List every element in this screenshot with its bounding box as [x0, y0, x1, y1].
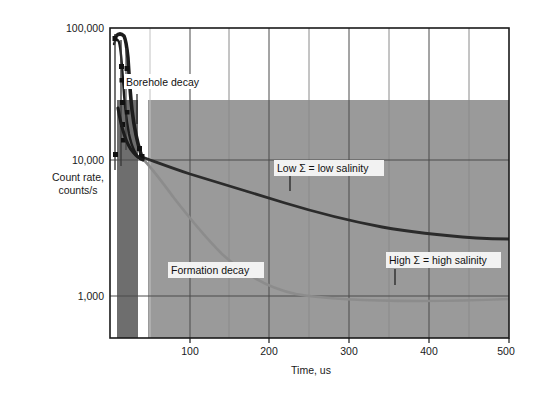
borehole-marker-7 — [125, 110, 130, 115]
shaded-region-formation-window — [148, 100, 509, 338]
y-axis-title-line1: Count rate, — [52, 171, 104, 183]
y-axis-title: Count rate, counts/s — [52, 171, 104, 196]
borehole-marker-6 — [120, 100, 125, 105]
borehole-marker-4 — [120, 78, 125, 83]
borehole-marker-11 — [137, 146, 142, 151]
shaded-regions — [117, 100, 509, 338]
x-tick-label-200: 200 — [260, 345, 278, 357]
annotation-label-low-sigma: Low Σ = low salinity — [277, 162, 369, 174]
y-axis-title-line2: counts/s — [58, 184, 97, 196]
annotation-label-high-sigma: High Σ = high salinity — [389, 254, 488, 266]
x-tick-label-300: 300 — [340, 345, 358, 357]
annotation-label-formation-decay: Formation decay — [171, 264, 250, 276]
x-tick-label-500: 500 — [497, 345, 515, 357]
borehole-marker-10 — [113, 152, 118, 157]
x-axis-title: Time, us — [291, 364, 331, 376]
count-rate-decay-chart: 100 200 300 400 500 Time, us 100,000 10,… — [0, 0, 538, 393]
annotation-label-borehole-decay: Borehole decay — [126, 76, 200, 88]
y-tick-label-1000: 1,000 — [78, 290, 104, 302]
x-tick-label-400: 400 — [420, 345, 438, 357]
borehole-marker-2 — [119, 64, 124, 69]
y-tick-label-10000: 10,000 — [72, 154, 104, 166]
y-tick-label-100000: 100,000 — [66, 22, 104, 34]
x-tick-label-100: 100 — [181, 345, 199, 357]
chart-figure: 100 200 300 400 500 Time, us 100,000 10,… — [0, 0, 538, 393]
annotation-formation-decay: Formation decay — [168, 262, 264, 278]
borehole-marker-3 — [125, 66, 130, 71]
borehole-marker-1 — [113, 36, 118, 41]
